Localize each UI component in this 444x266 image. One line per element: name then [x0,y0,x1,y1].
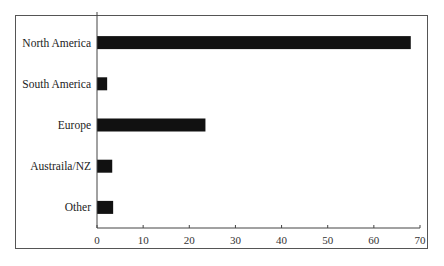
x-tick-label: 50 [322,234,334,246]
bar-austraila-nz [97,160,112,173]
category-label-other: Other [65,201,91,213]
bar-other [97,201,113,214]
x-tick-label: 60 [368,234,380,246]
x-tick-label: 0 [94,234,100,246]
x-tick-label: 30 [230,234,242,246]
category-label-austraila-nz: Austraila/NZ [30,160,91,172]
x-tick-label: 70 [415,234,427,246]
bar-north-america [97,36,411,49]
category-label-europe: Europe [58,119,91,132]
category-label-south-america: South America [22,78,91,90]
x-tick-label: 10 [138,234,150,246]
category-label-north-america: North America [22,37,91,49]
x-tick-label: 20 [184,234,196,246]
bar-europe [97,119,205,132]
x-tick-label: 40 [276,234,288,246]
bar-south-america [97,77,107,90]
bar-chart: North AmericaSouth AmericaEuropeAustrail… [0,0,444,266]
